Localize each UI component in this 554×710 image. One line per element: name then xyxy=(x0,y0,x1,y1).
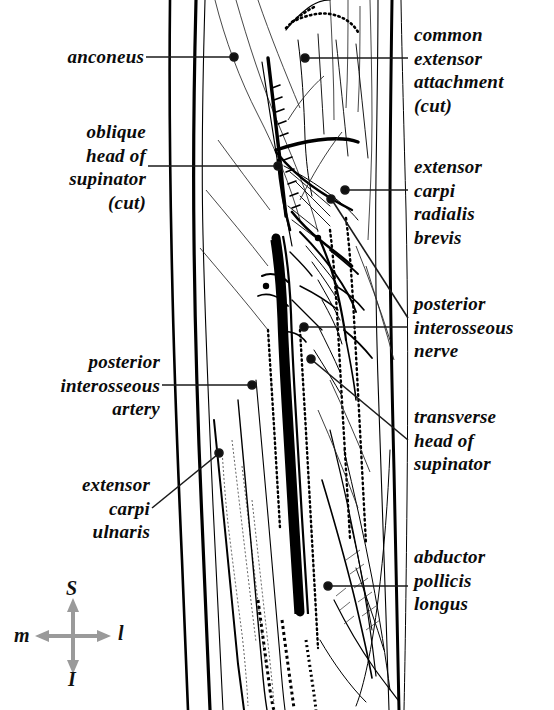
label-extensor-carpi-ulnaris: extensor carpi ulnaris xyxy=(20,473,150,544)
label-oblique-head-of-supinator: oblique head of supinator (cut) xyxy=(6,120,146,214)
label-extensor-carpi-radialis-brevis: extensor carpi radialis brevis xyxy=(414,155,548,249)
label-anconeus: anconeus xyxy=(20,45,144,69)
compass-label-lateral: l xyxy=(118,622,124,645)
label-abductor-pollicis-longus: abductor pollicis longus xyxy=(414,545,544,616)
label-common-extensor-attachment: common extensor attachment (cut) xyxy=(414,23,550,117)
leader-oblique-head-of-supinator xyxy=(148,162,282,170)
compass-label-medial: m xyxy=(14,624,30,647)
label-posterior-interosseous-artery: posterior interosseous artery xyxy=(10,350,160,421)
compass-label-inferior: I xyxy=(68,668,76,691)
compass-arrow-superior xyxy=(67,598,79,612)
leader-anconeus xyxy=(146,53,238,61)
label-transverse-head-of-supinator: transverse head of supinator xyxy=(414,405,550,476)
compass-arrow-lateral xyxy=(97,630,111,642)
illustration-ink xyxy=(170,0,408,710)
label-posterior-interosseous-nerve: posterior interosseous nerve xyxy=(414,292,550,363)
anatomical-figure-page: anconeus oblique head of supinator (cut)… xyxy=(0,0,554,710)
compass-arrow-medial xyxy=(35,630,49,642)
compass-label-superior: S xyxy=(66,577,77,600)
leader-extensor-carpi-radialis-brevis xyxy=(341,186,408,194)
orientation-compass xyxy=(35,598,111,674)
